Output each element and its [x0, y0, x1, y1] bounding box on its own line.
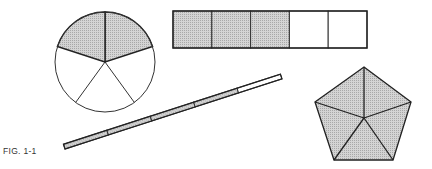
- figure-canvas: [0, 0, 432, 169]
- rectangle-fraction-diagram: [173, 11, 367, 48]
- figure-caption: FIG. 1-1: [3, 146, 37, 156]
- circle-fraction-diagram: [55, 12, 155, 112]
- pentagon-fraction-diagram: [315, 67, 411, 160]
